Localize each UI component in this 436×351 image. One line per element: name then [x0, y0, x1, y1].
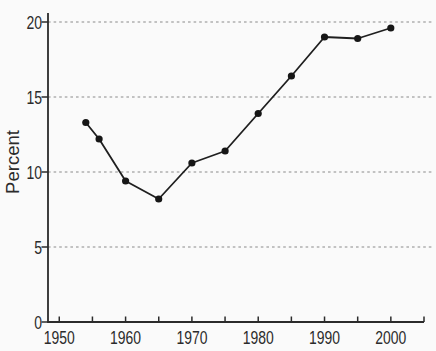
axes — [48, 13, 424, 322]
x-tick-label-1970: 1970 — [176, 327, 207, 348]
data-point-1975 — [222, 147, 229, 154]
x-tick-label-2000: 2000 — [375, 327, 406, 348]
y-tick-label-0: 0 — [34, 312, 42, 333]
x-tick-label-1990: 1990 — [309, 327, 340, 348]
data-point-1956 — [96, 135, 103, 142]
data-point-2000 — [387, 24, 394, 31]
x-tick-label-1960: 1960 — [110, 327, 141, 348]
chart-figure: 19501960197019801990200005101520Percent — [0, 0, 436, 351]
x-tick-label-1980: 1980 — [243, 327, 274, 348]
y-tick-label-15: 15 — [26, 87, 42, 108]
data-point-1970 — [188, 159, 195, 166]
data-point-1990 — [321, 33, 328, 40]
data-point-1954 — [82, 119, 89, 126]
y-axis-title: Percent — [2, 130, 23, 194]
line-chart: 19501960197019801990200005101520Percent — [0, 0, 436, 351]
data-point-1980 — [255, 110, 262, 117]
data-point-1965 — [155, 195, 162, 202]
y-tick-label-10: 10 — [26, 162, 42, 183]
data-point-1960 — [122, 177, 129, 184]
x-tick-label-1950: 1950 — [44, 327, 75, 348]
data-point-1995 — [354, 35, 361, 42]
y-tick-label-20: 20 — [26, 12, 42, 33]
series-line — [86, 28, 391, 199]
data-point-1985 — [288, 72, 295, 79]
y-tick-label-5: 5 — [34, 237, 42, 258]
